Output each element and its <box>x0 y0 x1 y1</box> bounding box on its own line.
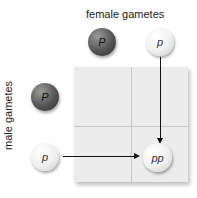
arrow-right-icon <box>63 156 135 157</box>
allele-label: p <box>42 151 48 163</box>
female-gamete-p: p <box>146 28 174 56</box>
male-gamete-P: P <box>31 83 59 111</box>
allele-label: P <box>41 91 48 103</box>
female-gametes-label: female gametes <box>86 8 164 20</box>
male-gamete-p: p <box>31 143 59 171</box>
female-gamete-P: P <box>88 28 116 56</box>
offspring-pp: pp <box>143 143 172 172</box>
arrow-down-icon <box>160 57 161 139</box>
allele-label: P <box>98 36 105 48</box>
grid-vertical-divider <box>131 67 132 182</box>
male-gametes-label: male gametes <box>2 81 14 150</box>
grid-horizontal-divider <box>74 126 188 127</box>
allele-label: p <box>157 36 163 48</box>
punnett-square <box>74 67 188 182</box>
genotype-label: pp <box>151 152 163 164</box>
